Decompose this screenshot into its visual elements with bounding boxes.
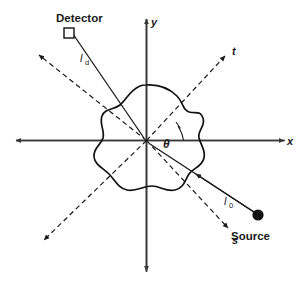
t-axis-positive bbox=[147, 56, 226, 141]
x-axis-label: x bbox=[286, 135, 294, 147]
detector-label: Detector bbox=[56, 12, 103, 24]
detector-square-icon bbox=[64, 28, 74, 38]
source-path-subscript: 0 bbox=[229, 201, 233, 210]
detector-path-subscript: d bbox=[85, 58, 89, 67]
t-axis-label: t bbox=[232, 45, 237, 57]
source-marker-group bbox=[252, 209, 263, 220]
detector-path-label-group: l d bbox=[80, 52, 89, 67]
theta-arc-tick bbox=[176, 122, 181, 129]
source-ray-direction-arrow bbox=[196, 174, 257, 214]
detector-path-label: l bbox=[80, 52, 83, 64]
figure-container: Detector Source y x t s θ l d l 0 bbox=[0, 0, 303, 283]
s-axis-label: s bbox=[232, 234, 238, 246]
y-axis-label: y bbox=[150, 16, 158, 28]
s-axis-positive bbox=[147, 141, 229, 229]
s-axis-negative bbox=[39, 55, 147, 141]
detector-marker-group bbox=[64, 28, 74, 38]
detector-ray-outgoing bbox=[73, 34, 144, 138]
diagram-canvas: Detector Source y x t s θ l d l 0 bbox=[0, 0, 303, 283]
source-path-label: l bbox=[224, 195, 227, 207]
theta-label: θ bbox=[163, 137, 170, 151]
rotated-st-axes bbox=[39, 55, 228, 240]
ray-path-group bbox=[73, 34, 257, 214]
source-dot-icon bbox=[252, 209, 263, 220]
